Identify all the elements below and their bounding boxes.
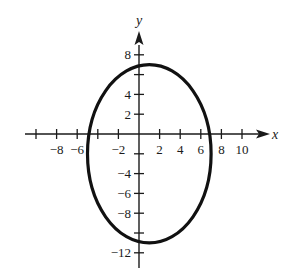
- x-tick-label: 2: [156, 142, 163, 157]
- x-tick-label: 6: [198, 142, 205, 157]
- y-axis-label: y: [134, 13, 143, 28]
- y-tick-label: −8: [117, 206, 131, 221]
- y-tick-label: −4: [117, 166, 131, 181]
- y-tick-label: −12: [111, 245, 131, 260]
- x-tick-labels: −8−6−2246810: [50, 142, 249, 157]
- ellipse-chart: x y −8−6−2246810 842−4−6−8−12: [0, 0, 292, 278]
- y-tick-label: 2: [125, 107, 132, 122]
- x-axis: x: [25, 127, 279, 142]
- ellipse-curve: [88, 65, 212, 243]
- x-tick-label: −8: [50, 142, 64, 157]
- y-axis-arrow-icon: [135, 31, 144, 45]
- x-tick-label: 10: [236, 142, 249, 157]
- y-axis: y: [134, 13, 144, 268]
- y-tick-label: −6: [117, 186, 131, 201]
- x-tick-label: 4: [177, 142, 184, 157]
- x-tick-label: −2: [111, 142, 125, 157]
- x-tick-label: 8: [218, 142, 225, 157]
- y-tick-label: 8: [125, 47, 132, 62]
- y-tick-label: 4: [125, 87, 132, 102]
- x-tick-label: −6: [70, 142, 84, 157]
- x-axis-label: x: [271, 127, 279, 142]
